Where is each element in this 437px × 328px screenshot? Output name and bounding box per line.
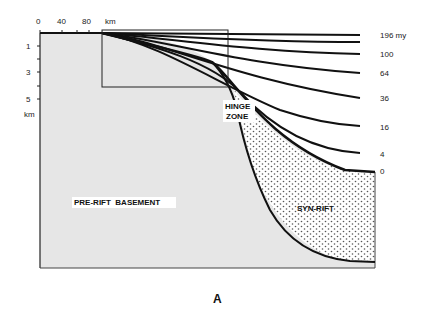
x-tick-80: 80 [82, 17, 91, 26]
y-tick-1: 1 [26, 42, 31, 51]
rift-subsidance-diagram: 0 40 80 km 1 3 5 km 196 my 100 64 36 16 … [0, 0, 437, 328]
isochron-labels: 196 my 100 64 36 16 4 0 [380, 31, 406, 176]
hinge-zone-label-line1: HINGE [225, 102, 251, 111]
y-axis-unit: km [24, 110, 35, 119]
x-tick-40: 40 [57, 17, 66, 26]
y-tick-5: 5 [26, 95, 31, 104]
panel-label: A [213, 292, 222, 306]
y-tick-3: 3 [26, 68, 31, 77]
isochron-label-196: 196 my [380, 31, 406, 40]
isochron-label-4: 4 [380, 150, 385, 159]
isochron-label-0: 0 [380, 167, 385, 176]
isochron-label-16: 16 [380, 123, 389, 132]
isochron-label-64: 64 [380, 69, 389, 78]
x-axis-unit: km [105, 17, 116, 26]
hinge-zone-label-line2: ZONE [226, 112, 249, 121]
y-axis: 1 3 5 km [24, 42, 40, 119]
x-axis: 0 40 80 km [36, 17, 116, 33]
x-tick-0: 0 [36, 17, 41, 26]
isochron-label-36: 36 [380, 94, 389, 103]
pre-rift-basement-label: PRE-RIFT BASEMENT [74, 198, 160, 207]
syn-rift-label: SYN-RIFT [297, 204, 334, 213]
isochron-label-100: 100 [380, 50, 394, 59]
